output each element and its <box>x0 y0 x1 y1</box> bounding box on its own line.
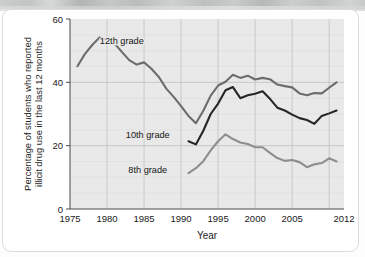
y-tick-label: 40 <box>52 77 63 88</box>
x-tick-label: 2012 <box>333 213 354 224</box>
y-tick-label: 20 <box>52 140 63 151</box>
y-axis-title-line1: Percentage of students who reported <box>22 37 33 191</box>
y-tick-label: 60 <box>52 14 63 25</box>
x-tick-label: 1985 <box>133 213 154 224</box>
x-tick-label: 1995 <box>208 213 229 224</box>
y-axis-title-line2: illicit drug use in the last 12 months <box>33 41 44 187</box>
x-tick-label: 1975 <box>59 213 80 224</box>
x-tick-label: 2000 <box>245 213 266 224</box>
series-label-10th-grade: 10th grade <box>126 130 170 140</box>
x-tick-label: 1990 <box>171 213 192 224</box>
line-chart: 020406019751980198519901995200020052012Y… <box>0 0 365 257</box>
figure-root: 020406019751980198519901995200020052012Y… <box>0 0 365 257</box>
series-label-12th-grade: 12th grade <box>100 36 144 46</box>
x-axis-title: Year <box>197 230 218 241</box>
x-tick-label: 1980 <box>96 213 117 224</box>
series-label-8th-grade: 8th grade <box>128 165 167 175</box>
x-tick-label: 2005 <box>282 213 303 224</box>
